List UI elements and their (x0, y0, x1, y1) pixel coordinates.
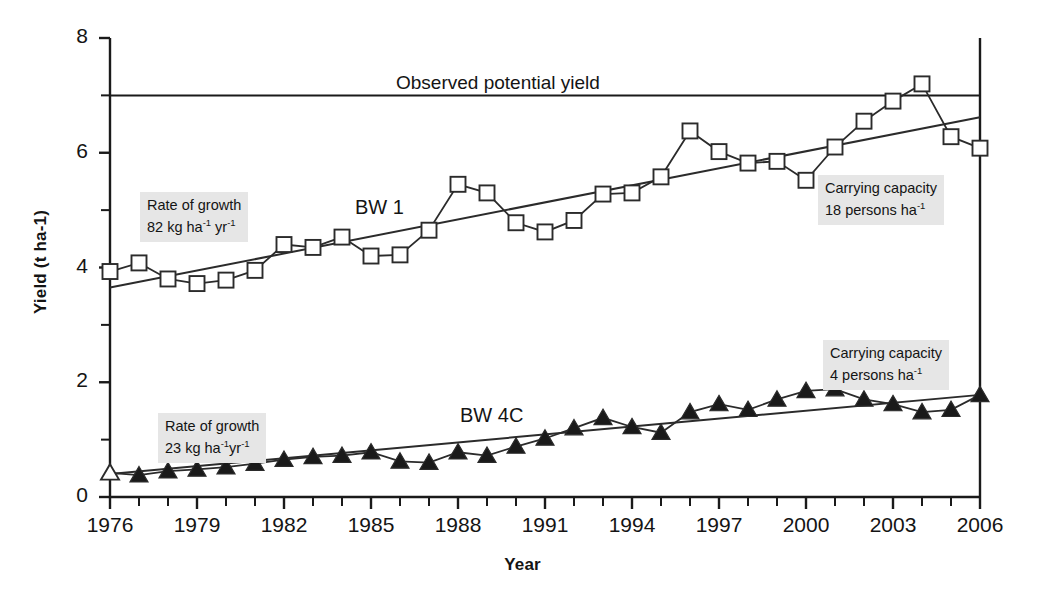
x-tick-label: 2003 (848, 513, 938, 537)
x-tick-label: 1994 (587, 513, 677, 537)
chart-figure: Yield (t ha-1) Year 02468197619791982198… (0, 0, 1045, 594)
x-tick-label: 1997 (674, 513, 764, 537)
annotation-line-2: 4 persons ha-1 (830, 364, 942, 386)
bw1-label: BW 1 (355, 196, 404, 219)
x-tick-label: 1988 (413, 513, 503, 537)
annotation-line-1: Rate of growth (147, 195, 241, 216)
y-tick-label: 8 (48, 24, 88, 48)
annotation-carrying-capacity-bw1: Carrying capacity18 persons ha-1 (818, 175, 944, 225)
annotation-line-1: Carrying capacity (825, 178, 937, 199)
x-tick-label: 1982 (239, 513, 329, 537)
y-tick-label: 2 (48, 368, 88, 392)
bw4c-label: BW 4C (460, 404, 523, 427)
annotation-carrying-capacity-bw4c: Carrying capacity4 persons ha-1 (823, 340, 949, 390)
annotation-line-2: 82 kg ha-1 yr-1 (147, 216, 241, 238)
x-axis-title: Year (0, 555, 1045, 575)
x-tick-label: 1991 (500, 513, 590, 537)
annotation-line-1: Rate of growth (165, 416, 259, 437)
y-tick-label: 6 (48, 139, 88, 163)
observed-potential-yield-label: Observed potential yield (396, 72, 600, 94)
annotation-line-2: 18 persons ha-1 (825, 199, 937, 221)
x-tick-label: 2006 (935, 513, 1025, 537)
x-tick-label: 2000 (761, 513, 851, 537)
y-tick-label: 4 (48, 254, 88, 278)
y-tick-label: 0 (48, 483, 88, 507)
annotation-line-2: 23 kg ha-1yr-1 (165, 437, 259, 459)
x-tick-label: 1979 (152, 513, 242, 537)
annotation-line-1: Carrying capacity (830, 343, 942, 364)
x-tick-label: 1985 (326, 513, 416, 537)
annotation-rate-bw1: Rate of growth82 kg ha-1 yr-1 (140, 192, 248, 242)
annotation-rate-bw4c: Rate of growth23 kg ha-1yr-1 (158, 413, 266, 463)
x-tick-label: 1976 (65, 513, 155, 537)
